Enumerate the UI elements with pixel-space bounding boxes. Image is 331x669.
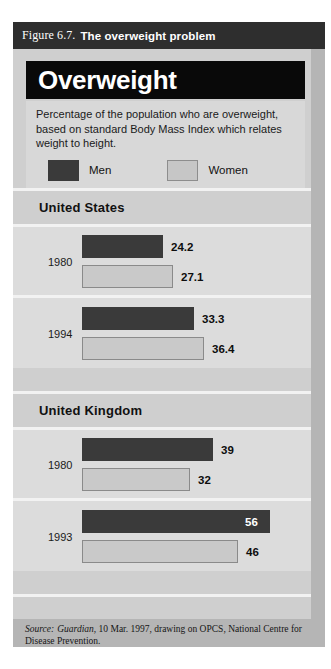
- bar-value-women: 46: [246, 546, 259, 558]
- source-prefix: Source:: [25, 624, 54, 634]
- bar-men: [82, 235, 163, 258]
- chart-title: Overweight: [38, 65, 177, 96]
- year-label: 1980: [48, 459, 72, 471]
- bar-men: [82, 438, 213, 461]
- chart-panel: Overweight Percentage of the population …: [13, 49, 311, 619]
- legend-item-men: Men: [48, 160, 111, 181]
- legend-label-men: Men: [89, 164, 111, 176]
- separator-rule: [13, 188, 311, 191]
- bar-women: [82, 468, 190, 491]
- bar-group-uk-1980: 1980 39 32: [13, 430, 311, 498]
- bar-row-women: 27.1: [82, 265, 302, 288]
- legend-swatch-women: [167, 160, 198, 181]
- bar-row-men: 39: [82, 438, 302, 461]
- bar-row-women: 32: [82, 468, 302, 491]
- figure-root: Figure 6.7. The overweight problem Overw…: [0, 0, 331, 669]
- figure-caption-bar: Figure 6.7. The overweight problem: [13, 22, 325, 49]
- bar-row-men: 33.3: [82, 307, 302, 330]
- bar-row-women: 36.4: [82, 337, 302, 360]
- bar-women: [82, 540, 238, 563]
- bar-row-women: 46: [82, 540, 302, 563]
- bar-value-men: 24.2: [171, 241, 193, 253]
- bar-value-men: 33.3: [202, 313, 224, 325]
- country-heading-united-kingdom: United Kingdom: [39, 403, 142, 418]
- bar-group-us-1994: 1994 33.3 36.4: [13, 298, 311, 368]
- bar-women: [82, 337, 204, 360]
- country-heading-united-states: United States: [39, 200, 125, 215]
- legend-item-women: Women: [167, 160, 247, 181]
- bar-row-men: 56: [82, 510, 302, 533]
- bar-group-uk-1993: 1993 56 46: [13, 501, 311, 571]
- bar-women: [82, 265, 173, 288]
- bar-value-men: 39: [221, 444, 234, 456]
- chart-description-block: Percentage of the population who are ove…: [26, 101, 305, 159]
- legend-label-women: Women: [208, 164, 247, 176]
- chart-description: Percentage of the population who are ove…: [36, 107, 295, 151]
- legend-swatch-men: [48, 160, 79, 181]
- bar-value-women: 27.1: [181, 271, 203, 283]
- bar-men: [82, 510, 270, 533]
- bar-group-us-1980: 1980 24.2 27.1: [13, 227, 311, 295]
- year-label: 1993: [48, 531, 72, 543]
- chart-title-band: Overweight: [26, 61, 305, 99]
- bar-value-men: 56: [245, 516, 258, 528]
- year-label: 1980: [48, 256, 72, 268]
- separator-rule: [13, 594, 311, 597]
- bar-value-women: 36.4: [212, 343, 234, 355]
- bar-row-men: 24.2: [82, 235, 302, 258]
- figure-title: The overweight problem: [80, 30, 215, 42]
- chart-legend: Men Women: [26, 152, 305, 188]
- bar-men: [82, 307, 194, 330]
- separator-rule: [13, 391, 311, 394]
- bar-value-women: 32: [198, 474, 211, 486]
- source-publication: Guardian: [57, 624, 94, 634]
- figure-number: Figure 6.7.: [22, 28, 75, 43]
- year-label: 1994: [48, 328, 72, 340]
- source-note: Source:Guardian, 10 Mar. 1997, drawing o…: [13, 619, 325, 647]
